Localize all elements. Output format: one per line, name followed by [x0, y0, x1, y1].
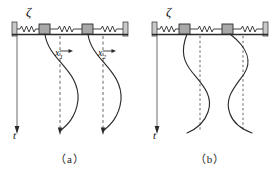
panel-a-diagram	[0, 0, 140, 152]
panel-b-diagram	[140, 0, 280, 152]
panel-a: ζ	[0, 0, 140, 176]
spring-2-b	[190, 26, 222, 32]
spring-2-a	[50, 26, 82, 32]
mass-2-a	[82, 24, 93, 34]
figure-root: ζ	[0, 0, 280, 176]
mode-curve-1-b	[183, 34, 209, 133]
displacement-arrowhead-2-a	[112, 49, 117, 53]
mass-1-a	[39, 24, 50, 34]
displacement-arrowhead-1-a	[69, 49, 74, 53]
panel-b: ζ t （b）	[140, 0, 280, 176]
caption-b: （b）	[140, 150, 280, 166]
spring-3-b	[233, 26, 263, 32]
mass-1-displacement-label-a: x1	[55, 47, 63, 61]
t-axis-label-a: t	[13, 129, 16, 141]
spring-1-b	[157, 26, 179, 32]
spring-1-a	[17, 26, 39, 32]
mass-2-b	[222, 24, 233, 34]
caption-a: （a）	[0, 150, 140, 166]
mode-curve-2-b	[228, 34, 252, 133]
mass-2-displacement-label-a: x2	[98, 47, 106, 61]
mass-1-b	[179, 24, 190, 34]
spring-3-a	[93, 26, 123, 32]
t-axis-label-b: t	[153, 129, 156, 141]
